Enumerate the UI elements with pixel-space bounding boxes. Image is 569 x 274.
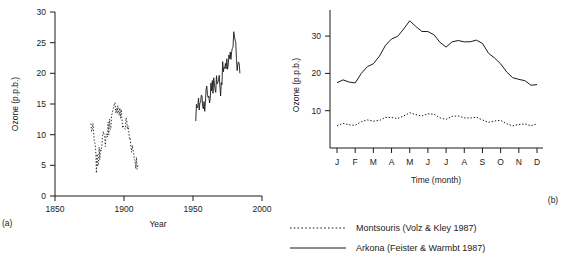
panel-a-ytick-6: 30: [37, 7, 47, 17]
panel-a-xlabel: Year: [149, 219, 166, 229]
panel-a-series-1: [196, 32, 240, 121]
panel-b-ytick-0: 10: [312, 106, 322, 116]
panel-b-xtick-label-3: A: [389, 157, 395, 167]
panel-a-xtick-1: 1900: [115, 204, 134, 214]
panel-b-xtick-label-1: F: [353, 157, 358, 167]
chart-panel-b: 10 20 30 JFMAMJJASOND Ozone (p.p.b.) Tim…: [285, 0, 569, 210]
panel-a-tag: (a): [2, 218, 13, 228]
panel-b-xtick-label-9: O: [497, 157, 504, 167]
panel-a-ytick-0: 0: [41, 191, 46, 201]
panel-b-ylabel: Ozone (p.p.b.): [291, 58, 301, 113]
legend-label-montsouris: Montsouris (Volz & Kley 1987): [356, 223, 477, 233]
panel-a-xtick-2: 1950: [184, 204, 203, 214]
panel-b-xtick-label-4: M: [406, 157, 413, 167]
panel-b-xtick-label-5: J: [426, 157, 430, 167]
panel-b-xtick-label-6: J: [444, 157, 448, 167]
panel-a-ytick-3: 15: [37, 99, 47, 109]
panel-b-svg: 10 20 30 JFMAMJJASOND Ozone (p.p.b.) Tim…: [285, 0, 569, 210]
panel-b-tag: (b): [548, 195, 559, 205]
panel-b-xtick-label-0: J: [335, 157, 339, 167]
legend-label-arkona: Arkona (Feister & Warmbt 1987): [356, 243, 485, 253]
legend-item-arkona: Arkona (Feister & Warmbt 1987): [290, 238, 560, 258]
panel-a-ytick-1: 5: [41, 160, 46, 170]
panel-b-xtick-label-7: A: [461, 157, 467, 167]
legend-swatch-dotted: [290, 223, 346, 233]
panel-b-xtick-label-2: M: [370, 157, 377, 167]
panel-a-series-0: [91, 103, 138, 174]
panel-a-ytick-5: 25: [37, 38, 47, 48]
panel-a-y-ticks: 0 5 10 15 20 25 30: [37, 7, 55, 201]
panel-b-xlabel: Time (month): [411, 175, 461, 185]
panel-a-ylabel: Ozone (p.p.b.): [10, 77, 20, 132]
panel-b-xtick-label-8: S: [480, 157, 486, 167]
panel-a-ytick-4: 20: [37, 68, 47, 78]
panel-b-ytick-1: 20: [312, 68, 322, 78]
panel-b-series-group: [337, 21, 537, 126]
panel-a-series-group: [91, 32, 240, 173]
panel-b-series-1: [337, 21, 537, 85]
legend: Montsouris (Volz & Kley 1987) Arkona (Fe…: [290, 218, 560, 258]
legend-swatch-solid: [290, 243, 346, 253]
panel-b-xtick-label-10: N: [516, 157, 522, 167]
panel-b-xtick-label-11: D: [534, 157, 540, 167]
legend-item-montsouris: Montsouris (Volz & Kley 1987): [290, 218, 560, 238]
panel-a-xtick-0: 1850: [46, 204, 65, 214]
panel-a-ytick-2: 10: [37, 130, 47, 140]
panel-a-svg: 0 5 10 15 20 25 30 1850 1900 1950 2000 O…: [0, 0, 285, 230]
panel-b-y-ticks: 10 20 30: [312, 31, 330, 116]
panel-b-ytick-2: 30: [312, 31, 322, 41]
chart-panel-a: 0 5 10 15 20 25 30 1850 1900 1950 2000 O…: [0, 0, 285, 230]
panel-a-xtick-3: 2000: [253, 204, 272, 214]
panel-b-series-0: [337, 113, 537, 126]
panel-a-x-ticks: 1850 1900 1950 2000: [46, 196, 272, 214]
panel-b-x-ticks: JFMAMJJASOND: [335, 148, 540, 167]
figure-root: 0 5 10 15 20 25 30 1850 1900 1950 2000 O…: [0, 0, 569, 274]
